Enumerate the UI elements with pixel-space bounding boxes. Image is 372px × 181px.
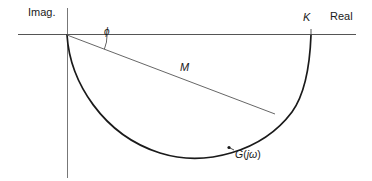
- transfer-function-symbol: G: [235, 148, 243, 160]
- transfer-function-argument: jω: [247, 148, 258, 160]
- real-axis-label: Real: [330, 11, 353, 22]
- transfer-function-label: G(jω): [235, 149, 261, 160]
- magnitude-label: M: [180, 62, 189, 73]
- plot-canvas: [0, 0, 372, 181]
- gain-k-label: K: [303, 12, 310, 23]
- phase-angle-label: ϕ: [104, 27, 110, 37]
- locus-curve: [67, 35, 311, 158]
- polar-plot-figure: Imag. Real K M ϕ G(jω): [0, 0, 372, 181]
- transfer-function-paren-close: ): [257, 148, 261, 160]
- magnitude-vector-line: [67, 35, 275, 114]
- imaginary-axis-label: Imag.: [28, 7, 56, 18]
